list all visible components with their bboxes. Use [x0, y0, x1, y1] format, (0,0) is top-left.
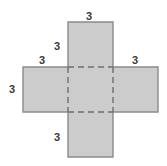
- dimension-label-right-square-top-edge: 3: [132, 55, 138, 66]
- cube-net-drawing: [0, 0, 167, 166]
- dimension-label-top-square-left-edge: 3: [54, 41, 60, 52]
- dimension-label-top-square-top-edge: 3: [86, 11, 92, 22]
- dimension-label-center-square-top-edge: 3: [39, 55, 45, 66]
- dimension-label-left-square-left-edge: 3: [9, 84, 15, 95]
- cube-net-figure: 3 3 3 3 3 3: [0, 0, 167, 166]
- cross-fill-region: [23, 22, 158, 157]
- dimension-label-bottom-square-left-edge: 3: [54, 132, 60, 143]
